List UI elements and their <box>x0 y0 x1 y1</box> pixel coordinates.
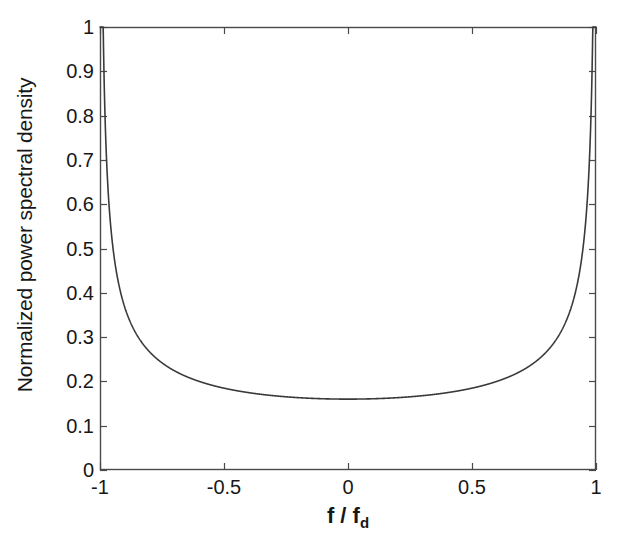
x-tick-label: 0.5 <box>432 477 512 497</box>
x-axis-title-subscript: d <box>360 514 369 531</box>
axis-tick-marks <box>100 27 597 471</box>
x-tick-label: 1 <box>556 477 627 497</box>
plot-frame <box>101 28 596 470</box>
x-tick-label: 0 <box>308 477 388 497</box>
x-axis-title-main: f / f <box>327 503 360 528</box>
axis-frame <box>101 28 596 470</box>
plot-area <box>0 0 627 554</box>
x-tick-label: -0.5 <box>184 477 264 497</box>
x-axis-title: f / fd <box>100 503 596 531</box>
psd-curve <box>100 27 596 399</box>
x-tick-label: -1 <box>60 477 140 497</box>
figure-canvas: Normalized power spectral density 00.10.… <box>0 0 627 554</box>
